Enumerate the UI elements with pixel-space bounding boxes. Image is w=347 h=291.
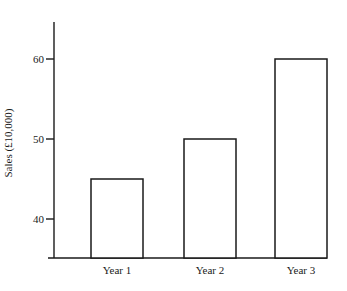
bars [91,59,327,258]
bar-year-2 [184,139,236,258]
x-category-label: Year 3 [287,264,316,276]
y-tick-label: 50 [33,133,45,145]
y-tick-label: 40 [33,213,45,225]
y-axis: 405060 [33,22,54,258]
y-tick-label: 60 [33,53,45,65]
bar-year-1 [91,179,143,258]
x-category-label: Year 1 [103,264,132,276]
y-axis-title-group: Sales (£10,000) [2,108,15,177]
bar-year-3 [275,59,327,258]
y-axis-title: Sales (£10,000) [2,108,15,177]
bar-chart: Sales (£10,000) 405060 Year 1Year 2Year … [0,0,347,291]
x-category-label: Year 2 [196,264,225,276]
category-labels: Year 1Year 2Year 3 [103,264,316,276]
